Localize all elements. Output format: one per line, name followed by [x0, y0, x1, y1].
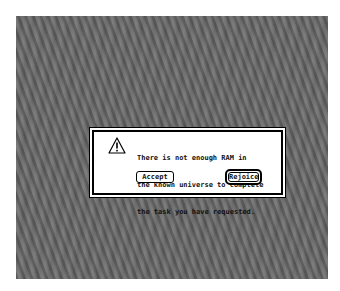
alert-dialog: There is not enough RAM in the known uni… — [89, 127, 286, 198]
caution-icon — [108, 137, 126, 155]
rejoice-button[interactable]: Rejoice — [228, 172, 259, 182]
default-button-ring: Rejoice — [225, 169, 262, 185]
desktop-background: There is not enough RAM in the known uni… — [16, 16, 328, 279]
alert-message: There is not enough RAM in the known uni… — [137, 136, 263, 235]
accept-button[interactable]: Accept — [136, 171, 174, 183]
alert-message-line: the task you have requested. — [137, 208, 263, 217]
alert-dialog-body: There is not enough RAM in the known uni… — [92, 130, 283, 195]
alert-message-line: There is not enough RAM in — [137, 154, 263, 163]
